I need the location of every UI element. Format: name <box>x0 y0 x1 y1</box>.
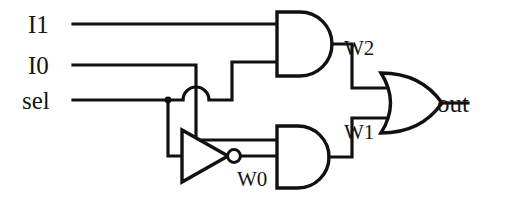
wire-sel-to-inverter <box>168 100 182 156</box>
circuit-canvas: I1 I0 sel W2 W1 W0 out <box>0 0 505 204</box>
not-gate-bubble-icon <box>228 150 241 163</box>
wire-i0 <box>73 65 277 140</box>
and-gate-top <box>277 12 332 76</box>
input-label-i1: I1 <box>28 11 49 38</box>
wire-label-w1: W1 <box>344 120 374 144</box>
wire-label-w2: W2 <box>344 36 374 60</box>
not-gate <box>182 130 228 182</box>
or-gate <box>381 73 442 133</box>
output-label-out: out <box>437 90 469 117</box>
wire-sel-to-and-top <box>209 62 277 100</box>
junction-dot-sel <box>165 97 172 104</box>
wire-label-w0: W0 <box>237 167 267 191</box>
input-label-i0: I0 <box>28 52 49 79</box>
and-gate-bottom <box>277 126 329 188</box>
input-label-sel: sel <box>22 87 50 114</box>
logic-circuit-diagram: I1 I0 sel W2 W1 W0 out <box>0 0 505 204</box>
